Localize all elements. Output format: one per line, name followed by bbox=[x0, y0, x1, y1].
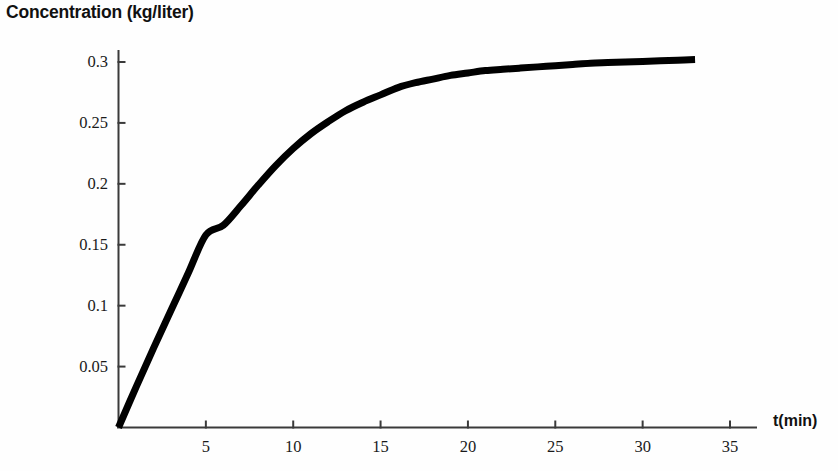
concentration-curve bbox=[119, 60, 696, 428]
x-tick-label: 15 bbox=[372, 437, 389, 457]
x-tick-label: 5 bbox=[202, 437, 210, 457]
x-tick-label: 35 bbox=[722, 437, 739, 457]
y-tick-label: 0.2 bbox=[62, 174, 108, 194]
x-tick-label: 25 bbox=[547, 437, 564, 457]
plot-area bbox=[0, 0, 838, 471]
x-tick-label: 10 bbox=[285, 437, 302, 457]
x-tick-label: 30 bbox=[634, 437, 651, 457]
y-tick-label: 0.1 bbox=[62, 296, 108, 316]
y-tick-label: 0.25 bbox=[62, 113, 108, 133]
chart-figure: Concentration (kg/liter) t(min) 0.050.10… bbox=[0, 0, 838, 471]
x-tick-label: 20 bbox=[460, 437, 477, 457]
y-tick-label: 0.05 bbox=[62, 357, 108, 377]
y-tick-label: 0.15 bbox=[62, 235, 108, 255]
y-tick-label: 0.3 bbox=[62, 52, 108, 72]
